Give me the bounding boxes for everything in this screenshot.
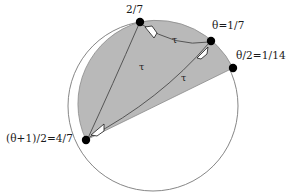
- label-point-theta-half: θ/2=1/14: [236, 50, 286, 61]
- figure-root: 2/7 θ=1/7 θ/2=1/14 (θ+1)/2=4/7 τ τ τ: [0, 0, 302, 196]
- label-tau-upper-arc: τ: [172, 35, 177, 45]
- label-point-theta-plus-one-half: (θ+1)/2=4/7: [6, 133, 73, 144]
- point-theta[interactable]: [207, 37, 215, 45]
- lamination-diagram-canvas: [0, 0, 302, 196]
- label-point-two-sevenths: 2/7: [126, 4, 143, 15]
- label-tau-middle-chord: τ: [139, 62, 144, 72]
- label-tau-lower-chord: τ: [181, 73, 186, 83]
- point-two-sevenths[interactable]: [136, 18, 144, 26]
- label-point-theta: θ=1/7: [212, 20, 245, 31]
- point-theta-plus-one-half[interactable]: [82, 136, 90, 144]
- point-theta-half[interactable]: [229, 64, 237, 72]
